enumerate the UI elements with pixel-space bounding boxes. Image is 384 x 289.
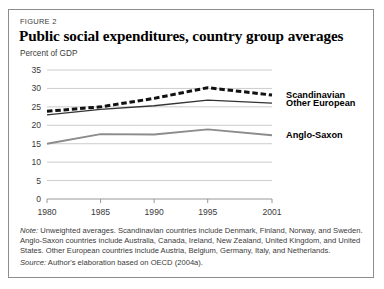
y-tick-label: 10 (31, 157, 41, 167)
series-label-other-european: Other European (286, 98, 356, 108)
note-line-3: States. Other European countries include… (20, 246, 358, 256)
figure-title: Public social expenditures, country grou… (19, 27, 343, 45)
x-tick-label: 1980 (37, 207, 56, 217)
chart-plot-area: 05101520253035 19801985199019952001 Scan… (19, 62, 363, 217)
series-label-anglo-saxon: Anglo-Saxon (286, 130, 343, 140)
x-tick-label: 1995 (198, 207, 217, 217)
figure-source: Source: Author's elaboration based on OE… (20, 258, 203, 268)
figure-number-label: FIGURE 2 (20, 17, 57, 26)
source-text: Author's elaboration based on OECD (2004… (46, 258, 203, 267)
note-line-2: Anglo-Saxon countries include Australia,… (20, 236, 358, 246)
x-tick-label: 2001 (262, 207, 281, 217)
y-axis-unit-label: Percent of GDP (20, 49, 77, 58)
y-axis-tick-labels: 05101520253035 (31, 65, 41, 204)
note-prefix: Note: (20, 226, 38, 235)
x-tick-label: 1985 (91, 207, 110, 217)
x-axis-tick-labels: 19801985199019952001 (37, 207, 281, 217)
y-tick-label: 20 (31, 120, 41, 130)
y-tick-label: 5 (36, 176, 41, 186)
series-line-scandinavian (47, 88, 272, 112)
figure-note: Note: Unweighted averages. Scandinavian … (20, 226, 358, 257)
x-axis-ticks (47, 199, 272, 203)
source-prefix: Source: (20, 258, 46, 267)
figure-container: FIGURE 2 Public social expenditures, cou… (8, 9, 374, 278)
series-line-anglo-saxon (47, 129, 272, 143)
note-text-1: Unweighted averages. Scandinavian countr… (38, 226, 362, 235)
y-tick-label: 0 (36, 194, 41, 204)
y-tick-label: 35 (31, 65, 41, 75)
x-tick-label: 1990 (145, 207, 164, 217)
note-line-1: Note: Unweighted averages. Scandinavian … (20, 226, 358, 236)
line-chart-svg: 05101520253035 19801985199019952001 Scan… (19, 62, 363, 217)
series-inline-legend: ScandinavianOther EuropeanAnglo-Saxon (286, 90, 356, 140)
y-tick-label: 30 (31, 83, 41, 93)
data-series-group (47, 88, 272, 144)
y-tick-label: 15 (31, 139, 41, 149)
gridlines-group (47, 70, 272, 181)
y-tick-label: 25 (31, 102, 41, 112)
